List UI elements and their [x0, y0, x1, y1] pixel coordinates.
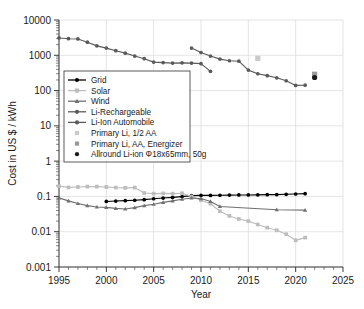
x-tick-label: 1995	[48, 275, 71, 286]
data-point-marker	[57, 184, 61, 188]
data-point-marker	[171, 192, 175, 196]
data-point-marker	[133, 54, 137, 58]
data-point-marker	[312, 75, 317, 80]
data-point-marker	[75, 89, 79, 93]
data-point-marker	[237, 217, 241, 221]
y-tick-label: 0.001	[26, 262, 51, 273]
data-point-marker	[75, 131, 79, 135]
data-point-marker	[142, 191, 146, 195]
series-li-rechargeable	[57, 36, 212, 73]
x-tick-label: 2025	[332, 275, 355, 286]
data-point-marker	[152, 192, 156, 196]
data-point-marker	[218, 57, 222, 61]
series-solar	[57, 184, 307, 242]
data-point-marker	[86, 185, 90, 189]
y-tick-label: 0.01	[32, 226, 52, 237]
data-point-marker	[152, 197, 156, 201]
data-point-marker	[228, 214, 232, 218]
data-point-marker	[256, 193, 260, 197]
data-point-marker	[303, 83, 307, 87]
data-point-marker	[275, 76, 279, 80]
data-point-marker	[218, 209, 222, 213]
data-point-marker	[294, 84, 298, 88]
data-point-marker	[114, 186, 118, 190]
legend-label: Primary Li, AA, Energizer	[91, 140, 183, 149]
data-point-marker	[123, 186, 127, 190]
chart-legend: GridSolarWindLi-RechargeableLi-Ion Autom…	[64, 71, 207, 162]
data-point-marker	[171, 61, 175, 65]
data-point-marker	[190, 61, 194, 65]
data-point-marker	[303, 236, 307, 240]
legend-label: Li-Rechargeable	[91, 108, 152, 117]
data-point-marker	[284, 192, 288, 196]
data-point-marker	[75, 152, 79, 156]
data-point-marker	[171, 196, 175, 200]
x-axis-ticks	[59, 267, 343, 272]
series-allround-li-ion-18x65mm-50g	[312, 75, 317, 80]
x-axis-title: Year	[191, 289, 212, 300]
data-point-marker	[237, 59, 241, 63]
legend-label: Primary Li, 1/2 AA	[91, 129, 157, 138]
data-point-marker	[114, 199, 118, 203]
y-axis-title: Cost in US $ / kWh	[7, 101, 18, 185]
data-point-marker	[133, 198, 137, 202]
data-point-marker	[76, 185, 80, 189]
legend-label: Solar	[91, 87, 110, 96]
legend-item-primary-li-aa-energizer[interactable]: Primary Li, AA, Energizer	[75, 140, 183, 149]
data-point-marker	[265, 74, 269, 78]
y-tick-label: 10	[40, 120, 52, 131]
data-point-marker	[294, 192, 298, 196]
x-tick-label: 2010	[190, 275, 213, 286]
data-point-marker	[161, 196, 165, 200]
y-tick-label: 1000	[29, 50, 52, 61]
data-point-marker	[67, 186, 71, 190]
data-point-marker	[265, 193, 269, 197]
x-tick-label: 2000	[95, 275, 118, 286]
data-point-marker	[133, 186, 137, 190]
data-point-marker	[86, 40, 90, 44]
data-point-marker	[284, 232, 288, 236]
data-point-marker	[256, 223, 260, 227]
y-tick-labels: 1000010001001010.10.010.001	[23, 15, 51, 273]
data-point-marker	[199, 51, 203, 55]
legend-label: Li-Ion Automobile	[91, 118, 155, 127]
data-point-marker	[246, 193, 250, 197]
data-point-marker	[209, 70, 213, 74]
data-point-marker	[256, 72, 260, 76]
data-point-marker	[275, 193, 279, 197]
data-point-marker	[180, 191, 184, 195]
data-point-marker	[190, 46, 194, 50]
data-point-marker	[284, 79, 288, 83]
y-tick-label: 0.1	[37, 191, 51, 202]
data-point-marker	[67, 37, 71, 41]
legend-item-allround-li-ion-18x65mm-50g[interactable]: Allround Li-ion Φ18x65mm, 50g	[75, 150, 207, 159]
data-point-marker	[114, 49, 118, 53]
data-point-marker	[104, 185, 108, 189]
data-point-marker	[246, 68, 250, 72]
data-point-marker	[255, 56, 260, 61]
data-point-marker	[75, 110, 79, 114]
data-point-marker	[95, 44, 99, 48]
data-point-marker	[275, 228, 279, 232]
data-point-marker	[180, 61, 184, 65]
data-point-marker	[218, 193, 222, 197]
y-tick-label: 100	[34, 85, 51, 96]
x-tick-label: 2005	[143, 275, 166, 286]
x-tick-labels: 1995200020052010201520202025	[48, 275, 355, 286]
x-tick-label: 2020	[285, 275, 308, 286]
chart-svg: 1000010001001010.10.010.001 199520002005…	[0, 0, 364, 309]
data-point-marker	[265, 226, 269, 230]
x-tick-label: 2015	[237, 275, 260, 286]
data-point-marker	[294, 238, 298, 242]
data-point-marker	[237, 193, 241, 197]
data-point-marker	[104, 200, 108, 204]
data-point-marker	[57, 36, 61, 40]
legend-label: Grid	[91, 76, 107, 85]
data-point-marker	[228, 193, 232, 197]
data-point-marker	[75, 78, 79, 82]
data-point-marker	[123, 199, 127, 203]
data-point-marker	[123, 51, 127, 55]
y-axis-ticks	[54, 20, 59, 267]
data-point-marker	[199, 62, 203, 66]
data-point-marker	[75, 120, 79, 124]
